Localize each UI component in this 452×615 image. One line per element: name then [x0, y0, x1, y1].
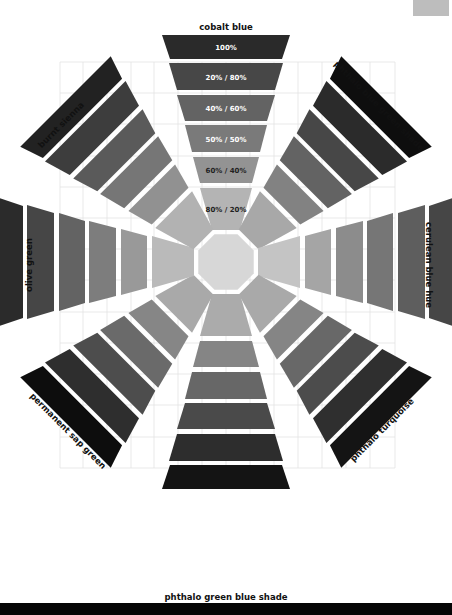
color-band [0, 198, 23, 326]
color-band [121, 229, 147, 295]
color-band [185, 372, 267, 399]
radial-chart: 100%20% / 80%40% / 60%50% / 50%60% / 40%… [0, 0, 452, 615]
color-band [305, 229, 331, 295]
band-label: 20% / 80% [206, 74, 247, 82]
color-band [162, 465, 290, 489]
arm-label: cerulean blue hue [424, 222, 434, 308]
center-octagon [198, 234, 253, 289]
color-band [177, 403, 275, 429]
color-band [336, 221, 363, 303]
arm-label: phthalo green blue shade [165, 592, 288, 602]
arm-cerulean-blue-hue [258, 198, 452, 326]
color-band [59, 213, 85, 311]
arm-label: cobalt blue [199, 22, 253, 32]
color-band [193, 341, 259, 367]
arm-phthalo-green-blue-shade [162, 294, 290, 489]
band-label: 80% / 20% [206, 206, 247, 214]
color-band [169, 434, 283, 461]
footer-bar [0, 603, 452, 615]
arm-label: olive green [24, 238, 34, 292]
band-label: 60% / 40% [206, 167, 247, 175]
color-band [398, 205, 425, 319]
band-label: 100% [215, 44, 237, 52]
color-band [367, 213, 393, 311]
arm-cobalt-blue: 100%20% / 80%40% / 60%50% / 50%60% / 40%… [162, 35, 290, 230]
band-label: 40% / 60% [206, 105, 247, 113]
color-band [89, 221, 116, 303]
band-label: 50% / 50% [206, 136, 247, 144]
